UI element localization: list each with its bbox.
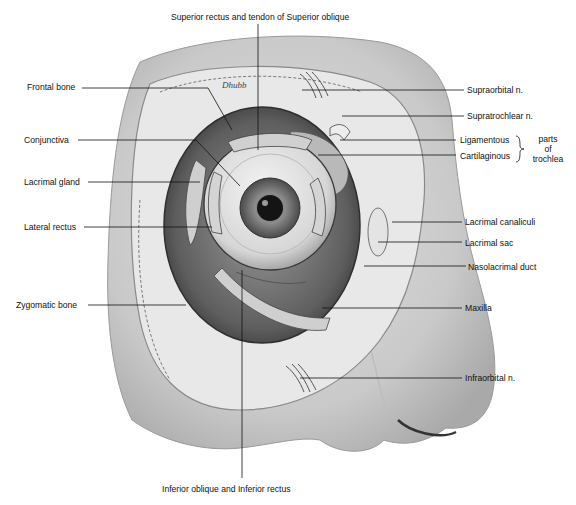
label-inferior-oblique: Inferior oblique and Inferior rectus bbox=[162, 484, 291, 494]
label-ligamentous: Ligamentous bbox=[460, 135, 509, 145]
label-lacrimal-canaliculi: Lacrimal canaliculi bbox=[465, 217, 535, 227]
orbit-illustration: Dhubb bbox=[0, 0, 576, 505]
label-lacrimal-sac: Lacrimal sac bbox=[465, 238, 513, 248]
label-cartilaginous: Cartilaginous bbox=[460, 151, 510, 161]
label-frontal-bone: Frontal bone bbox=[27, 82, 75, 92]
trochlea-brace bbox=[516, 136, 524, 162]
label-supraorbital-n: Supraorbital n. bbox=[467, 85, 523, 95]
label-conjunctiva: Conjunctiva bbox=[24, 135, 69, 145]
trochlea-line-2: of bbox=[526, 144, 570, 154]
label-parts-of-trochlea: parts of trochlea bbox=[526, 134, 570, 164]
trochlea-line-3: trochlea bbox=[526, 154, 570, 164]
trochlea-line-1: parts bbox=[526, 134, 570, 144]
label-superior-rectus: Superior rectus and tendon of Superior o… bbox=[171, 12, 349, 22]
label-supratrochlear-n: Supratrochlear n. bbox=[467, 111, 533, 121]
label-maxilla: Maxilla bbox=[465, 303, 492, 313]
label-infraorbital-n: Infraorbital n. bbox=[465, 373, 515, 383]
label-nasolacrimal-duct: Nasolacrimal duct bbox=[468, 262, 536, 272]
label-zygomatic-bone: Zygomatic bone bbox=[16, 300, 77, 310]
label-lacrimal-gland: Lacrimal gland bbox=[24, 177, 80, 187]
label-lateral-rectus: Lateral rectus bbox=[24, 222, 76, 232]
artist-signature: Dhubb bbox=[221, 80, 247, 90]
